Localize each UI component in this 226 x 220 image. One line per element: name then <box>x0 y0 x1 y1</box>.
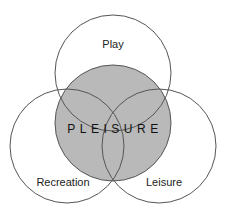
play-label: Play <box>102 38 124 50</box>
venn-diagram: Play Recreation Leisure PLEISURE <box>0 0 226 220</box>
recreation-label: Recreation <box>36 176 89 188</box>
pleisure-label: PLEISURE <box>67 122 162 136</box>
leisure-label: Leisure <box>146 176 182 188</box>
